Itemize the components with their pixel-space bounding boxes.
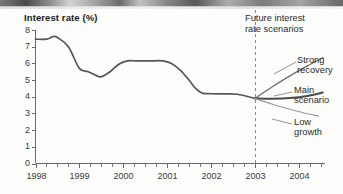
label-low-growth-line-2: growth [294, 127, 322, 138]
x-axis-ticks [37, 164, 300, 169]
y-axis-tick-label: 4 [14, 92, 30, 101]
label-strong-recovery-line-2: recovery [297, 65, 333, 76]
x-axis-tick-label: 1998 [21, 172, 53, 181]
x-axis-tick-label: 2003 [240, 172, 272, 181]
chart-figure: Interest rate (%) 012345678 199819992000… [0, 0, 343, 194]
y-axis-tick-label: 8 [14, 26, 30, 35]
y-axis-tick-label: 1 [14, 142, 30, 151]
y-axis-tick-label: 5 [14, 76, 30, 85]
chart-axes [36, 30, 326, 164]
x-axis-tick-label: 2004 [284, 172, 316, 181]
annotation-leader-lines [272, 62, 296, 124]
label-main-scenario-line-2: scenario [294, 95, 329, 106]
forecast-note-line-1: Future interest [245, 13, 305, 24]
x-axis-tick-label: 2002 [196, 172, 228, 181]
y-axis-tick-label: 2 [14, 126, 30, 135]
x-axis-tick-label: 1999 [64, 172, 96, 181]
series-historical-line [36, 36, 255, 98]
x-axis-tick-label: 2001 [152, 172, 184, 181]
y-axis-tick-label: 7 [14, 42, 30, 51]
y-axis-tick-label: 6 [14, 59, 30, 68]
y-axis-ticks [32, 31, 36, 165]
forecast-note-line-2: rate scenarios [245, 24, 303, 35]
x-axis-tick-label: 2000 [108, 172, 140, 181]
y-axis-tick-label: 0 [14, 159, 30, 168]
y-axis-tick-label: 3 [14, 109, 30, 118]
